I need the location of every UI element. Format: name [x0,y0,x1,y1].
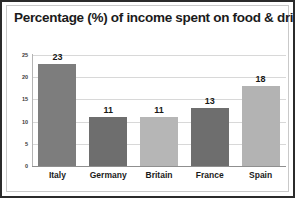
y-axis-tick-label: 20 [22,74,28,80]
bar-slot: 13 [184,55,235,166]
bar-slot: 18 [235,55,286,166]
category-label-france: France [196,170,224,180]
category-label-spain: Spain [249,170,272,180]
bar[interactable]: 18 [242,86,280,166]
bar-slot: 23 [32,55,83,166]
bar-value-label: 11 [154,105,164,115]
y-axis-tick-label: 10 [22,119,28,125]
y-axis-tick-label: 5 [25,141,28,147]
bar-value-label: 11 [103,105,113,115]
y-axis-tick-label: 0 [25,163,28,169]
chart-figure: Percentage (%) of income spent on food &… [0,0,295,198]
bar-series: 2311111318 [32,55,286,166]
bar[interactable]: 23 [38,64,76,166]
y-axis-tick-label: 15 [22,96,28,102]
category-label-britain: Britain [146,170,173,180]
bar[interactable]: 13 [191,108,229,166]
bar-slot: 11 [83,55,134,166]
bar[interactable]: 11 [89,117,127,166]
bar-value-label: 18 [256,74,266,84]
bar-value-label: 13 [205,96,215,106]
category-label-italy: Italy [49,170,66,180]
x-axis-line [32,166,286,167]
y-axis-tick-label: 25 [22,52,28,58]
bar-value-label: 23 [52,52,62,62]
bar-slot: 11 [134,55,185,166]
bar[interactable]: 11 [140,117,178,166]
chart-title: Percentage (%) of income spent on food &… [14,10,286,26]
category-label-germany: Germany [90,170,127,180]
